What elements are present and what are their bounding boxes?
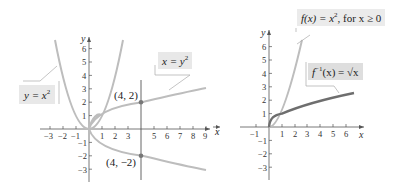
right-x-tick: 4 bbox=[318, 129, 323, 139]
left-x-tick: 3 bbox=[126, 131, 130, 141]
right-y-tick: 1 bbox=[262, 109, 266, 119]
left-y-tick: 1 bbox=[82, 111, 86, 121]
leader-sideways bbox=[155, 65, 190, 90]
label-point-upper: (4, 2) bbox=[114, 89, 138, 101]
stray-x-label: x bbox=[215, 126, 219, 137]
left-y-tick: −2 bbox=[78, 151, 87, 161]
leader-f bbox=[297, 35, 310, 44]
left-y-tick: −1 bbox=[78, 138, 87, 148]
right-graph: −1 1 2 3 4 5 6 x 6 5 4 3 2 1 −1 −2 −3 y bbox=[213, 27, 364, 180]
right-y-tick: 2 bbox=[262, 95, 266, 105]
left-x-tick: 5 bbox=[152, 131, 156, 141]
right-x-tick: 3 bbox=[305, 129, 309, 139]
point-lower bbox=[139, 154, 144, 159]
left-x-tick: 6 bbox=[165, 131, 169, 141]
left-y-axis-label: y bbox=[80, 33, 86, 44]
right-x-axis-label: x bbox=[358, 129, 364, 140]
right-y-tick: −2 bbox=[258, 149, 267, 159]
right-y-axis-label: y bbox=[260, 27, 266, 38]
label-sideways-parabola: x = y2 bbox=[158, 52, 192, 69]
label-f: f(x) = x2, for x ≥ 0 bbox=[297, 9, 385, 26]
left-x-tick: −3 bbox=[44, 131, 53, 141]
left-x-tick: 7 bbox=[178, 131, 182, 141]
right-y-arrow-icon bbox=[267, 30, 271, 35]
right-y-tick: −1 bbox=[258, 136, 267, 146]
leader-f-inverse bbox=[306, 86, 339, 93]
right-x-tick: 6 bbox=[344, 129, 348, 139]
right-x-tick: 1 bbox=[280, 129, 284, 139]
left-y-tick: 2 bbox=[82, 97, 86, 107]
right-x-tick: 2 bbox=[293, 129, 297, 139]
graphs-canvas: −3 −2 −1 1 2 3 5 6 7 8 9 6 5 4 3 2 1 −1 … bbox=[0, 0, 409, 193]
label-point-lower: (4, −2) bbox=[106, 156, 136, 168]
left-y-tick: −3 bbox=[78, 165, 87, 175]
point-upper bbox=[139, 100, 144, 105]
right-x-tick: 5 bbox=[331, 129, 335, 139]
left-x-tick: 1 bbox=[100, 131, 104, 141]
left-y-tick: 3 bbox=[82, 84, 86, 94]
label-f-inverse: f−1(x) = √x bbox=[308, 63, 363, 80]
right-y-tick: 6 bbox=[262, 42, 266, 52]
right-y-tick: 4 bbox=[262, 69, 267, 79]
right-y-tick: 3 bbox=[262, 82, 266, 92]
left-x-tick: 2 bbox=[113, 131, 117, 141]
right-y-tick: 5 bbox=[262, 55, 266, 65]
left-y-tick: 6 bbox=[82, 44, 86, 54]
right-y-tick: −3 bbox=[258, 163, 267, 173]
f-curve bbox=[269, 40, 302, 127]
label-parabola: y = x2 bbox=[19, 85, 55, 104]
left-y-arrow-icon bbox=[87, 37, 91, 42]
left-x-tick: 8 bbox=[191, 131, 195, 141]
left-x-tick: 9 bbox=[203, 131, 207, 141]
left-y-tick: 4 bbox=[82, 71, 87, 81]
leader-parabola bbox=[23, 66, 57, 81]
left-y-tick: 5 bbox=[82, 57, 86, 67]
left-x-tick: −2 bbox=[58, 131, 67, 141]
